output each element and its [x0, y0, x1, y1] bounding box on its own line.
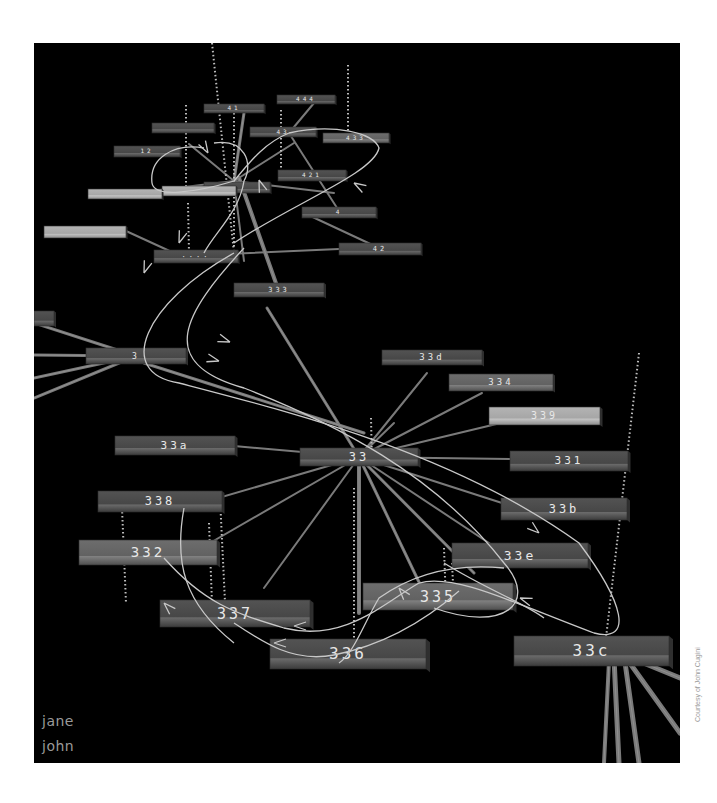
node-side-face: [217, 540, 220, 567]
node-label: ····: [182, 253, 211, 261]
dotted-connector: [212, 43, 234, 253]
node-n421[interactable]: 421: [278, 170, 348, 182]
node-bar: [34, 311, 54, 326]
node-333[interactable]: 333: [234, 283, 326, 299]
edge-spoke: [359, 373, 427, 457]
node-side-face: [600, 407, 603, 427]
node-n42[interactable]: 42: [339, 243, 423, 256]
node-side-face: [310, 600, 314, 630]
node-label: 33b: [549, 502, 580, 516]
node-label: 33a: [161, 439, 190, 452]
node-side-face: [235, 436, 238, 457]
node-n4a[interactable]: [152, 123, 216, 134]
node-n433[interactable]: 433: [323, 133, 391, 144]
graph-canvas: 3333d33433933a33133833b33233e33533733633…: [34, 43, 680, 763]
edge-spoke: [264, 457, 359, 588]
node-n41[interactable]: 41: [204, 104, 266, 114]
node-side-face: [186, 348, 188, 366]
node-33c[interactable]: 33c: [514, 636, 673, 669]
node-label: 42: [373, 245, 387, 253]
node-bar: [162, 186, 236, 196]
node-label: 33: [349, 450, 369, 464]
edge-spoke: [126, 231, 174, 253]
node-label: 339: [531, 410, 558, 421]
node-nL2[interactable]: [88, 189, 164, 200]
legend-john: john: [42, 738, 74, 754]
node-332[interactable]: 332: [79, 540, 220, 567]
node-label: 33c: [573, 641, 611, 660]
arrowhead-icon: [175, 230, 187, 244]
node-bars: 3333d33433933a33133833b33233e33533733633…: [34, 95, 673, 672]
node-side-face: [669, 636, 673, 669]
node-339[interactable]: 339: [489, 407, 603, 427]
node-33a[interactable]: 33a: [115, 436, 238, 457]
node-331[interactable]: 331: [510, 451, 631, 473]
node-side-face: [628, 451, 631, 473]
node-bar: [88, 189, 162, 199]
edge-spoke: [189, 144, 234, 181]
arrowhead-icon: [140, 260, 152, 274]
edge-highlight: [359, 457, 429, 603]
node-label: 421: [302, 171, 322, 178]
arrowhead-icon: [217, 334, 231, 346]
node-nL1[interactable]: [44, 226, 128, 239]
dotted-connector: [188, 203, 189, 253]
node-label: 333: [268, 286, 290, 294]
node-336[interactable]: 336: [270, 639, 430, 672]
node-bar: [44, 226, 126, 238]
node-label: 331: [555, 454, 584, 467]
node-n444[interactable]: 444: [277, 95, 337, 105]
node-label: 337: [217, 605, 253, 623]
node-label: 332: [131, 544, 165, 560]
arrowhead-icon: [206, 354, 220, 365]
node-label: 444: [296, 95, 316, 102]
node-n4[interactable]: 4: [302, 207, 378, 219]
node-n422[interactable]: [162, 186, 238, 197]
node-label: 33d: [419, 352, 444, 362]
node-33d[interactable]: 33d: [382, 350, 484, 367]
node-label: 335: [420, 588, 456, 606]
legend-jane: jane: [42, 713, 74, 729]
edge-highlight: [144, 363, 364, 433]
dotted-connector: [606, 353, 639, 638]
edge-highlight: [267, 308, 359, 457]
edge-highlight: [239, 178, 278, 289]
edge-spoke: [359, 393, 482, 457]
node-3[interactable]: 3: [86, 348, 188, 366]
node-label: 4: [336, 208, 343, 215]
node-label: 3: [132, 352, 140, 361]
node-335[interactable]: 335: [363, 583, 517, 613]
node-label: 338: [145, 494, 176, 508]
node-side-face: [222, 491, 225, 514]
node-label: 334: [488, 377, 513, 387]
node-33e[interactable]: 33e: [452, 543, 591, 570]
node-n43[interactable]: 43: [250, 127, 318, 138]
node-side-face: [426, 639, 430, 672]
node-338[interactable]: 338: [98, 491, 225, 514]
arrowhead-icon: [527, 522, 541, 536]
node-33b[interactable]: 33b: [501, 498, 630, 522]
node-n12[interactable]: 12: [114, 146, 182, 158]
arrowhead-icon: [352, 180, 366, 193]
node-bar: [152, 123, 214, 133]
node-label: 12: [140, 147, 153, 154]
node-label: 41: [227, 104, 240, 111]
node-334[interactable]: 334: [449, 374, 555, 393]
node-side-face: [627, 498, 630, 522]
image-credit: Courtesy of John Cugini: [694, 647, 701, 722]
node-label: 33e: [504, 548, 536, 563]
node-3a[interactable]: [34, 311, 56, 328]
node-side-face: [513, 583, 517, 613]
network-diagram: 3333d33433933a33133833b33233e33533733633…: [34, 43, 680, 763]
